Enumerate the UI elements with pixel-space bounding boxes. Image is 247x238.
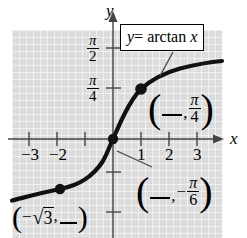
point-label-neg-pi-over-6: ( , − π 6 ): [136, 175, 213, 209]
radicand-3: 3: [43, 207, 54, 228]
point-1-pi-over-4: [135, 83, 147, 95]
x-tick-label-neg3: −3: [21, 146, 39, 163]
point-label-pi-over-4: ( , π 4 ): [148, 92, 214, 126]
arctan-graph-figure: y= arctan x y x −3 −2 1 2 3 π 2 π 4 ( , …: [0, 0, 247, 238]
callout-x: x: [190, 28, 197, 45]
close-paren-3: ): [78, 205, 88, 229]
callout-equals: =: [134, 28, 143, 45]
blank-x-value-2: [150, 185, 170, 199]
x-tick-label-1: 1: [137, 146, 146, 163]
open-paren-3: (: [12, 205, 22, 229]
close-paren-1: ): [201, 93, 214, 124]
minus-sign-3: −: [22, 207, 32, 227]
annot1-numerator: π: [189, 92, 201, 109]
point-origin: [108, 134, 118, 144]
open-paren-1: (: [148, 93, 161, 124]
sqrt-3-expression: √3: [33, 206, 54, 229]
equation-callout-box: y= arctan x: [120, 24, 204, 51]
close-paren-2: ): [199, 176, 212, 207]
blank-y-value-3: [60, 210, 77, 224]
annot1-denominator: 4: [189, 109, 201, 125]
minus-sign-2: −: [177, 182, 187, 202]
blank-x-value-1: [162, 102, 182, 116]
callout-function: arctan: [147, 28, 186, 45]
pi-over-2-denominator: 2: [87, 49, 99, 64]
comma-3: ,: [54, 206, 58, 229]
point-label-neg-sqrt3: ( − √3 , ): [12, 205, 88, 229]
point-neg-sqrt3: [55, 184, 65, 194]
x-axis-label: x: [230, 130, 238, 147]
comma-2: ,: [171, 186, 175, 209]
y-tick-label-pi-over-2: π 2: [87, 33, 99, 65]
x-tick-label-3: 3: [193, 146, 202, 163]
annot2-denominator: 6: [187, 192, 199, 208]
pi-over-4-denominator: 4: [87, 89, 99, 104]
y-axis-label: y: [106, 2, 114, 19]
y-tick-label-pi-over-4: π 4: [87, 73, 99, 105]
x-tick-label-neg2: −2: [49, 146, 67, 163]
x-tick-label-2: 2: [165, 146, 174, 163]
neg-pi-over-6-leader-line: [117, 151, 152, 167]
open-paren-2: (: [136, 176, 149, 207]
pi-over-4-numerator: π: [87, 73, 99, 89]
pi-over-2-numerator: π: [87, 33, 99, 49]
annot2-numerator: π: [187, 175, 199, 192]
comma-1: ,: [183, 103, 187, 126]
radical-sign: √: [33, 206, 44, 228]
